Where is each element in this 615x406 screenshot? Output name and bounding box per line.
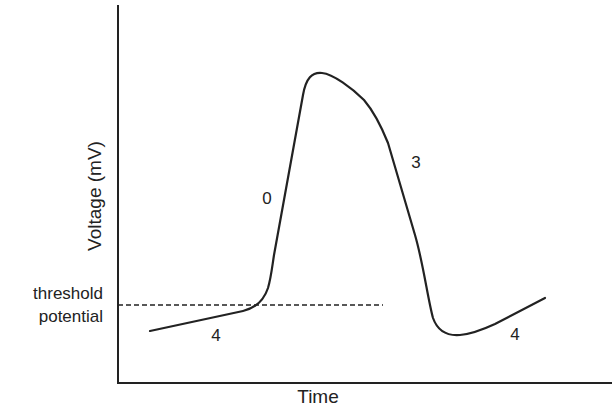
phase-4-left-label: 4 [211, 326, 220, 345]
phase-0-label: 0 [262, 189, 271, 208]
threshold-label-line2: potential [39, 307, 103, 326]
y-axis-label: Voltage (mV) [84, 141, 105, 251]
phase-3-label: 3 [411, 153, 420, 172]
threshold-label-line1: threshold [33, 284, 103, 303]
phase-4-right-label: 4 [510, 325, 519, 344]
action-potential-curve [150, 73, 545, 335]
action-potential-diagram: Voltage (mV) Time threshold potential 4 … [0, 0, 615, 406]
x-axis-label: Time [297, 386, 339, 406]
